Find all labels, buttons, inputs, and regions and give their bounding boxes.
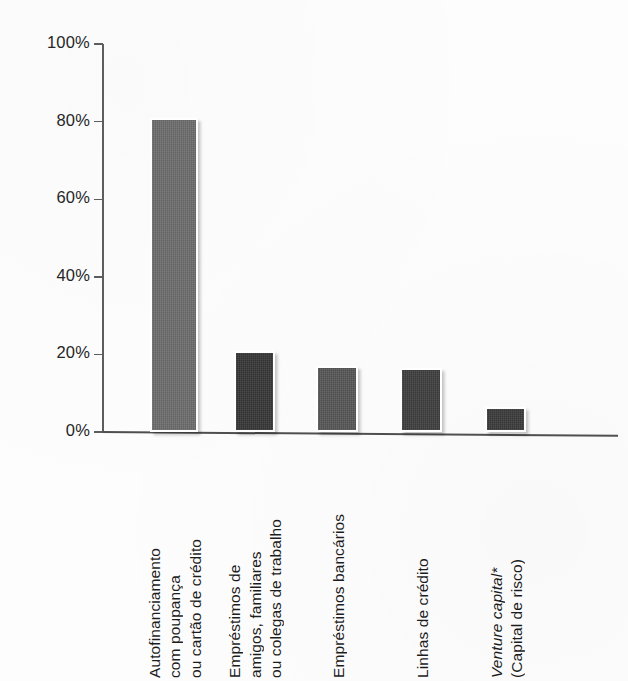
category-label-autofinanciamento: Autofinanciamentocom poupançaou cartão d… <box>144 442 207 678</box>
bar-autofinanciamento[interactable] <box>150 118 198 432</box>
y-axis-tick <box>94 43 103 45</box>
plot-area: 100%80%60%40%20%0% <box>0 0 628 460</box>
y-axis-tick <box>94 276 103 278</box>
bar-linhas-de-credito[interactable] <box>400 368 442 432</box>
category-label-line: Empréstimos bancários <box>328 442 349 678</box>
category-label-line: ou colegas de trabalho <box>265 442 286 678</box>
y-axis-tick-label: 80% <box>10 111 90 130</box>
y-axis-line <box>102 44 104 433</box>
category-label-linhas-de-credito: Linhas de crédito <box>412 442 433 678</box>
y-axis-tick <box>94 431 103 433</box>
bar-emprestimos-amigos[interactable] <box>234 351 275 432</box>
bar-emprestimos-bancarios[interactable] <box>316 366 358 432</box>
category-label-line: com poupança <box>164 442 185 678</box>
y-axis-tick-label: 60% <box>10 188 90 207</box>
category-label-emprestimos-bancarios: Empréstimos bancários <box>328 442 349 678</box>
bar-texture <box>236 353 273 430</box>
y-axis-tick <box>94 354 103 356</box>
category-label-line: amigos, familiares <box>245 442 266 678</box>
bar-chart: 100%80%60%40%20%0% Autofinanciamentocom … <box>0 0 628 681</box>
category-label-venture-capital: Venture capital*(Capital de risco) <box>486 442 528 678</box>
category-label-line: Autofinanciamento <box>144 442 165 678</box>
category-label-line: Empréstimos de <box>224 442 245 678</box>
y-axis-tick-label: 20% <box>10 343 90 362</box>
category-label-line: ou cartão de crédito <box>185 442 206 678</box>
y-axis-tick-label: 0% <box>10 421 90 440</box>
category-label-line: Linhas de crédito <box>412 442 433 678</box>
category-label-line: (Capital de risco) <box>506 442 527 678</box>
y-axis-tick-label: 40% <box>10 266 90 285</box>
y-axis-tick <box>94 121 103 123</box>
bar-texture <box>152 120 196 430</box>
bar-venture-capital[interactable] <box>485 407 526 432</box>
category-label-line: Venture capital* <box>486 442 507 678</box>
bar-texture <box>487 409 524 430</box>
bar-texture <box>318 368 356 430</box>
category-label-emprestimos-amigos: Empréstimos deamigos, familiaresou coleg… <box>224 442 287 678</box>
y-axis-tick <box>94 199 103 201</box>
y-axis-tick-label: 100% <box>10 33 90 52</box>
bar-texture <box>402 370 440 430</box>
